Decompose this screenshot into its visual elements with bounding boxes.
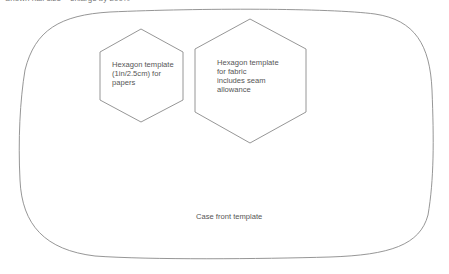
case-front-label: Case front template: [196, 212, 262, 221]
large-hexagon-label-line: for fabric: [217, 67, 279, 76]
small-hexagon-label-line: (1in/2.5cm) for: [112, 69, 174, 78]
large-hexagon-label-line: allowance: [217, 85, 279, 94]
case-front-outline: [19, 9, 433, 259]
template-diagram: [0, 0, 449, 274]
small-hexagon-label: Hexagon template (1in/2.5cm) for papers: [112, 60, 174, 87]
large-hexagon-label: Hexagon template for fabric includes sea…: [217, 58, 279, 94]
large-hexagon-label-line: Hexagon template: [217, 58, 279, 67]
small-hexagon-label-line: papers: [112, 78, 174, 87]
small-hexagon-label-line: Hexagon template: [112, 60, 174, 69]
large-hexagon-label-line: includes seam: [217, 76, 279, 85]
